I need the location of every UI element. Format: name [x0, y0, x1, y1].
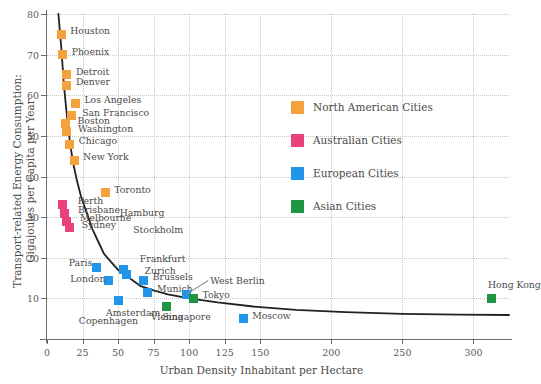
- x-axis-tick: [154, 339, 155, 344]
- data-point-label: Frankfurt: [140, 253, 186, 264]
- data-point-label: Los Angeles: [84, 94, 141, 105]
- gridline-vertical: [154, 14, 155, 339]
- x-axis-tick-label: 75: [148, 347, 160, 358]
- y-axis-tick: [41, 136, 46, 137]
- data-point-marker[interactable]: [65, 140, 74, 149]
- gridline-vertical: [83, 14, 84, 339]
- legend-item-label: European Cities: [313, 167, 399, 179]
- data-point-marker[interactable]: [189, 294, 198, 303]
- data-point-label: Tokyo: [202, 289, 230, 300]
- legend: North American CitiesAustralian CitiesEu…: [291, 96, 433, 228]
- y-axis-tick-label: 70: [17, 49, 39, 60]
- data-point-marker[interactable]: [62, 127, 71, 136]
- y-axis-tick: [41, 298, 46, 299]
- data-point-label: Toronto: [114, 184, 150, 195]
- x-axis-tick: [260, 339, 261, 344]
- data-point-label: Moscow: [252, 310, 291, 321]
- y-axis-tick: [41, 14, 46, 15]
- legend-swatch-icon: [291, 200, 304, 213]
- data-point-label: Sydney: [82, 219, 116, 230]
- x-axis-tick-label: 100: [180, 347, 198, 358]
- data-point-label: London: [70, 273, 105, 284]
- y-axis-tick: [41, 177, 46, 178]
- x-axis-tick: [189, 339, 190, 344]
- x-axis-tick-label: 300: [464, 347, 482, 358]
- gridline-vertical: [118, 14, 119, 339]
- y-axis-tick-label: 80: [17, 9, 39, 20]
- plot-area: [47, 14, 509, 339]
- data-point-marker[interactable]: [62, 81, 71, 90]
- x-axis-tick: [473, 339, 474, 344]
- x-axis-tick: [118, 339, 119, 344]
- data-point-label: Washington: [78, 123, 133, 134]
- data-point-marker[interactable]: [114, 296, 123, 305]
- x-axis-tick: [83, 339, 84, 344]
- x-axis-tick: [225, 339, 226, 344]
- y-axis-tick: [41, 95, 46, 96]
- x-axis-label: Urban Density Inhabitant per Hectare: [0, 364, 523, 376]
- x-axis-tick-label: 250: [393, 347, 411, 358]
- x-axis-tick: [402, 339, 403, 344]
- gridline-vertical: [473, 14, 474, 339]
- y-axis-tick: [41, 55, 46, 56]
- data-point-marker[interactable]: [92, 263, 101, 272]
- legend-swatch-icon: [291, 101, 304, 114]
- gridline-horizontal: [47, 177, 509, 178]
- x-axis-tick: [331, 339, 332, 344]
- x-axis-tick-label: 125: [216, 347, 234, 358]
- y-axis-tick: [41, 258, 46, 259]
- gridline-horizontal: [47, 14, 509, 15]
- data-point-marker[interactable]: [62, 70, 71, 79]
- legend-item[interactable]: North American Cities: [291, 96, 433, 118]
- y-axis-label-line1: Transport-related Energy Consumption:: [11, 61, 24, 301]
- data-point-label: Chicago: [79, 135, 117, 146]
- y-axis-label: Transport-related Energy Consumption: Gi…: [11, 61, 37, 301]
- data-point-label: Phoenix: [72, 46, 110, 57]
- x-axis-tick-label: 50: [112, 347, 124, 358]
- x-axis-line: [40, 339, 512, 340]
- data-point-label: Hong Kong: [488, 279, 541, 290]
- data-point-marker[interactable]: [143, 288, 152, 297]
- data-point-label: Hamburg: [120, 207, 165, 218]
- legend-item-label: Australian Cities: [313, 134, 402, 146]
- data-point-marker[interactable]: [58, 50, 67, 59]
- legend-item-label: Asian Cities: [313, 200, 376, 212]
- x-axis-tick-label: 200: [322, 347, 340, 358]
- data-point-marker[interactable]: [70, 156, 79, 165]
- data-point-label: West Berlin: [210, 275, 264, 286]
- data-point-label: Singapore: [162, 311, 210, 322]
- x-axis-tick-label: 0: [44, 347, 50, 358]
- y-axis-tick: [41, 217, 46, 218]
- data-point-label: Amsterdam: [106, 307, 160, 318]
- y-axis-label-line2: Gigajoules per Capita per Year: [24, 61, 37, 301]
- data-point-label: Houston: [70, 25, 110, 36]
- x-axis-tick: [47, 339, 48, 344]
- data-point-marker[interactable]: [57, 30, 66, 39]
- legend-item[interactable]: European Cities: [291, 162, 433, 184]
- data-point-label: Denver: [76, 76, 110, 87]
- data-point-label: Paris: [69, 257, 93, 268]
- x-axis-tick-label: 150: [251, 347, 269, 358]
- data-point-marker[interactable]: [487, 294, 496, 303]
- gridline-horizontal: [47, 55, 509, 56]
- gridline-horizontal: [47, 258, 509, 259]
- data-point-marker[interactable]: [71, 99, 80, 108]
- x-axis-tick-label: 25: [76, 347, 88, 358]
- gridline-vertical: [260, 14, 261, 339]
- y-axis-line: [46, 10, 47, 343]
- data-point-marker[interactable]: [65, 223, 74, 232]
- legend-item[interactable]: Australian Cities: [291, 129, 433, 151]
- data-point-label: Brussels: [153, 271, 193, 282]
- data-point-marker[interactable]: [239, 314, 248, 323]
- legend-item-label: North American Cities: [313, 101, 433, 113]
- legend-item[interactable]: Asian Cities: [291, 195, 433, 217]
- data-point-marker[interactable]: [139, 276, 148, 285]
- legend-swatch-icon: [291, 167, 304, 180]
- data-point-label: New York: [83, 151, 129, 162]
- data-point-marker[interactable]: [122, 270, 131, 279]
- data-point-label: Stockholm: [133, 224, 183, 235]
- legend-swatch-icon: [291, 134, 304, 147]
